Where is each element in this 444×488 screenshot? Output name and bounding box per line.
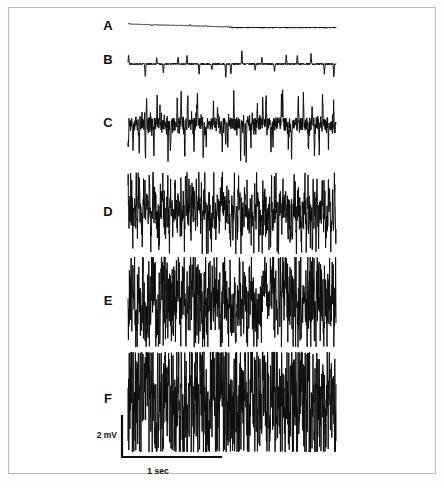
trace-labels-group: ABCDEF — [103, 18, 113, 406]
trace-label-d: D — [103, 204, 112, 219]
trace-label-a: A — [103, 18, 113, 33]
emg-trace-e — [128, 257, 336, 347]
trace-label-f: F — [104, 391, 112, 406]
trace-label-b: B — [103, 52, 112, 67]
trace-label-c: C — [103, 115, 113, 130]
emg-trace-f — [128, 352, 336, 452]
emg-trace-b — [128, 51, 336, 78]
emg-trace-plot: ABCDEF 2 mV1 sec — [0, 0, 444, 488]
scale-bar-vertical-label: 2 mV — [97, 430, 118, 440]
emg-trace-c — [128, 90, 336, 163]
trace-label-e: E — [104, 293, 113, 308]
emg-trace-d — [128, 172, 336, 254]
scale-bar-horizontal-label: 1 sec — [147, 466, 169, 476]
traces-group — [128, 23, 336, 452]
figure-root: ABCDEF 2 mV1 sec — [0, 0, 444, 488]
emg-trace-a — [128, 23, 336, 28]
